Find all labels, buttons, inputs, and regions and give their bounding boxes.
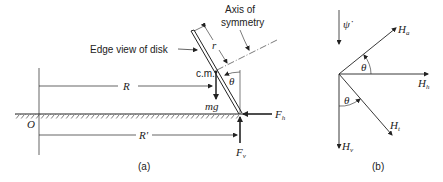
svg-text:R: R (122, 80, 130, 92)
panel-b: ψ̇ Ha Hh Ht Hv θ θ (b) (339, 10, 430, 172)
cm-label: c.m. (196, 68, 215, 79)
axis-of-symmetry-leader (240, 30, 249, 50)
Ha-label: Ha (397, 23, 410, 37)
Ht-label: Ht (389, 119, 401, 133)
R-prime-dimension: R' (39, 129, 237, 141)
theta-label-lower: θ (344, 94, 350, 106)
ground-surface (15, 114, 244, 119)
mg-label: mg (205, 100, 219, 112)
edge-view-leader (178, 49, 197, 50)
origin-label: O (27, 118, 35, 130)
Hh-label: Hh (417, 77, 430, 91)
Fh-label: Fh (274, 108, 286, 122)
svg-text:r: r (212, 39, 217, 51)
psi-dot-label: ψ̇ (343, 18, 354, 30)
axis-of-symmetry-label: Axis of (225, 4, 255, 15)
panel-a: O R R' Edge view of disk r (15, 4, 286, 172)
edge-view-label: Edge view of disk (90, 44, 169, 55)
theta-arc-lower (339, 99, 360, 106)
Hv-label: Hv (341, 140, 354, 154)
center-of-mass-point (215, 71, 218, 74)
theta-label-a: θ (229, 75, 235, 87)
panel-a-caption: (a) (138, 161, 150, 172)
axis-of-symmetry-label-2: symmetry (221, 17, 264, 28)
rolling-disk-diagram: O R R' Edge view of disk r (0, 0, 443, 182)
Ha-vector (339, 28, 396, 74)
theta-label-upper: θ (361, 61, 367, 73)
Fv-label: Fv (235, 146, 247, 160)
R-dimension: R (39, 80, 212, 92)
panel-b-caption: (b) (372, 161, 384, 172)
svg-text:R': R' (138, 129, 149, 141)
axis-of-symmetry-line (217, 40, 277, 70)
